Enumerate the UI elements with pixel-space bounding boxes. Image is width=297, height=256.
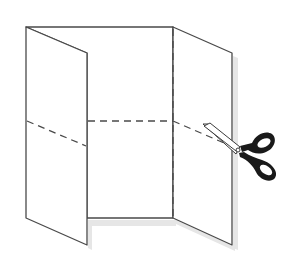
trifold-paper-diagram: Tri-fold paper sheet with dashed fold li… xyxy=(0,0,297,256)
folded-left-panel xyxy=(26,27,87,245)
diagram-canvas xyxy=(0,0,297,256)
